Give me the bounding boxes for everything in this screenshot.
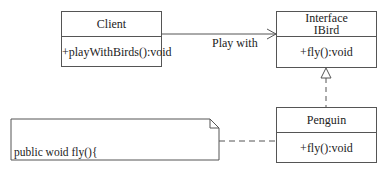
class-client[interactable]: Client +playWithBirds():void <box>61 11 162 67</box>
hollow-triangle-icon <box>321 68 331 78</box>
class-methods: +playWithBirds():void <box>62 36 161 66</box>
class-name: Client <box>62 12 161 36</box>
note-line-1: public woid fly(){ <box>14 146 234 159</box>
association-label: Play with <box>212 36 258 51</box>
class-methods: +fly():void <box>277 36 376 67</box>
class-penguin[interactable]: Penguin +fly():void <box>276 107 377 163</box>
class-name: Penguin <box>277 108 376 132</box>
class-methods: +fly():void <box>277 132 376 162</box>
interface-header: Interface IBird <box>277 12 376 36</box>
class-name: IBird <box>277 24 376 36</box>
interface-ibird[interactable]: Interface IBird +fly():void <box>276 11 377 68</box>
note[interactable]: public woid fly(){ System.out.println("E… <box>14 120 234 173</box>
